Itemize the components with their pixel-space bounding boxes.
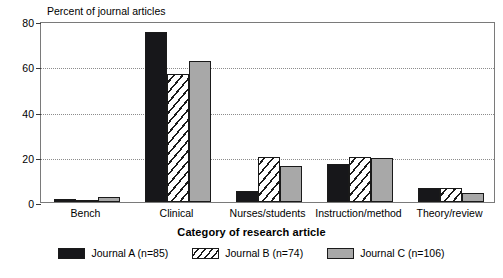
x-axis-tick-label: Bench [71,207,101,219]
x-axis-tick-label: Theory/review [417,207,483,219]
bar-group [405,23,496,202]
bar [280,166,302,202]
bar-chart-figure: Percent of journal articles 020406080 Ca… [0,0,503,278]
x-axis-tick-label: Instruction/method [315,207,401,219]
y-axis-tick-label: 60 [22,62,34,74]
legend-item: Journal C (n=106) [327,247,444,259]
bar [236,191,258,202]
y-axis-tick-label: 40 [22,108,34,120]
y-axis-tick-label: 80 [22,17,34,29]
legend-item: Journal A (n=85) [58,247,168,259]
x-axis-tick-label: Clinical [160,207,194,219]
bar-group [132,23,223,202]
legend-swatch-icon [192,248,219,259]
bar [371,158,393,202]
legend-label: Journal B (n=74) [225,247,303,259]
bar [258,157,280,202]
legend-label: Journal C (n=106) [360,247,444,259]
bar [167,74,189,202]
bar [418,188,440,202]
legend-item: Journal B (n=74) [192,247,303,259]
bar-group [41,23,132,202]
bar [327,164,349,202]
bar [98,197,120,202]
bar [349,157,371,202]
bar-group [223,23,314,202]
bar-group [314,23,405,202]
bar [145,32,167,202]
bar [76,200,98,202]
bar [440,188,462,202]
plot-area: 020406080 [40,22,495,203]
bar [54,199,76,202]
bar [462,193,484,202]
legend-swatch-icon [58,248,85,259]
legend-label: Journal A (n=85) [91,247,168,259]
chart-legend: Journal A (n=85)Journal B (n=74)Journal … [0,247,503,259]
x-axis-title: Category of research article [0,226,503,238]
y-axis-title: Percent of journal articles [47,5,165,17]
legend-swatch-icon [327,248,354,259]
bar [189,61,211,202]
x-axis-tick-label: Nurses/students [230,207,306,219]
y-axis-tick-label: 20 [22,153,34,165]
y-axis-tick-label: 0 [28,198,34,210]
y-axis-tick-mark [36,204,41,205]
